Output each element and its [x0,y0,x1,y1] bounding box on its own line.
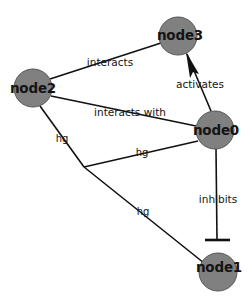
node-label-node2: node2 [10,82,56,96]
edge-label-interacts: interacts [87,57,133,68]
network-graph-canvas: node3 node2 node0 node1 interacts activa… [0,0,252,298]
graph-svg-layer [0,0,252,298]
edge-label-inhibits: inhibits [199,194,237,205]
edge-label-activates: activates [176,79,224,90]
activates-arrowhead-icon [186,52,199,78]
edge-label-hg-node2-junction: hg [56,134,69,144]
node-label-node3: node3 [157,29,203,43]
edge-label-interacts-with: interacts with [94,107,166,118]
node-label-node1: node1 [196,261,242,275]
edge-label-hg-node0-junction: hg [136,148,149,158]
edge-label-hg-junction-node1: hg [137,207,150,217]
node-label-node0: node0 [193,124,239,138]
